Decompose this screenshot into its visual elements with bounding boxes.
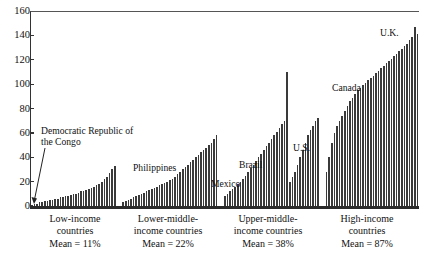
y-tick-mark-140 [30,35,34,36]
annotation-us: U.S. [293,142,310,153]
y-tick-label-140: 140 [4,30,30,40]
group-label-line-1: High-income [320,213,414,225]
y-tick-label-40: 40 [4,152,30,162]
y-tick-label-160: 160 [4,6,30,16]
y-tick-label-60: 60 [4,128,30,138]
y-tick-mark-40 [30,157,34,158]
group-caption-lower-middle-income: Lower-middle- income countries Mean = 22… [119,213,217,250]
y-tick-label-100: 100 [4,79,30,89]
group-caption-upper-middle-income: Upper-middle- income countries Mean = 38… [219,213,317,250]
group-caption-low-income: Low-income countries Mean = 11% [31,213,119,250]
bar [417,34,420,206]
y-tick-label-0: 0 [4,201,30,211]
group-caption-high-income: High-income countries Mean = 87% [320,213,414,250]
bar [216,135,219,206]
bars-layer [31,11,419,206]
group-label-line-2: countries [320,225,414,237]
bar [114,166,117,206]
y-tick-mark-100 [30,84,34,85]
group-label-line-1: Low-income [31,213,119,225]
bar-group-high-income [326,11,419,206]
group-label-line-1: Upper-middle- [219,213,317,225]
bar-chart: 020406080100120140160 Democratic Republi… [0,0,425,270]
bar-group-lower-middle-income [122,11,218,206]
group-label-line-2: countries [31,225,119,237]
annotation-brazil: Brazil [239,159,262,170]
group-mean-low-income: Mean = 11% [31,238,119,250]
y-tick-label-20: 20 [4,177,30,187]
y-tick-mark-20 [30,181,34,182]
y-tick-mark-60 [30,132,34,133]
annotation-philippines: Philippines [133,162,176,173]
bar-group-low-income [31,11,116,206]
annotation-uk: U.K. [380,27,399,38]
y-tick-label-120: 120 [4,55,30,65]
bar [317,118,320,206]
group-mean-high-income: Mean = 87% [320,238,414,250]
bar-group-upper-middle-income [224,11,320,206]
group-label-line-1: Lower-middle- [119,213,217,225]
group-label-line-2: income countries [119,225,217,237]
y-tick-mark-80 [30,108,34,109]
x-axis-baseline [30,206,419,209]
annotation-mexico: Mexico [211,178,240,189]
group-label-line-2: income countries [219,225,317,237]
y-axis: 020406080100120140160 [0,0,30,270]
group-mean-upper-middle-income: Mean = 38% [219,238,317,250]
y-tick-label-80: 80 [4,104,30,114]
group-mean-lower-middle-income: Mean = 22% [119,238,217,250]
y-tick-mark-120 [30,59,34,60]
annotation-canada: Canada [332,82,361,93]
annotation-drc: Democratic Republic of the Congo [41,125,137,147]
